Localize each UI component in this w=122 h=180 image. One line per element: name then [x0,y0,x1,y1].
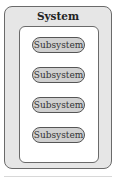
system-title: System [5,10,111,22]
subsystem-node: Subsystem [32,37,85,53]
subsystem-node: Subsystem [32,127,85,143]
subsystem-node: Subsystem [32,67,85,83]
system-container: System Subsystem Subsystem Subsystem Sub… [4,6,112,169]
subsystem-node: Subsystem [32,97,85,113]
subsystem-group: Subsystem Subsystem Subsystem Subsystem [19,26,99,163]
divider [4,176,112,177]
